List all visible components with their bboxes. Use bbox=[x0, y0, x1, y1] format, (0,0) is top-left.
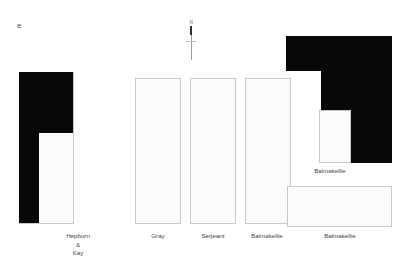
plot-hepburn-kay-block-leg bbox=[19, 72, 39, 223]
north-arrow-head-icon bbox=[190, 26, 192, 35]
north-arrow-label: N bbox=[183, 20, 199, 25]
plot-label-hepburn-kay-line3: Kay bbox=[48, 249, 108, 258]
plot-label-serjeant: Serjeant bbox=[183, 232, 243, 241]
figure-canvas: e N Hepburn & Kay Gray Serjeant Balmakel… bbox=[0, 0, 414, 280]
plot-gray bbox=[135, 78, 181, 224]
plot-label-hepburn-kay: Hepburn & Kay bbox=[48, 232, 108, 258]
plot-label-gray: Gray bbox=[128, 232, 188, 241]
plot-label-balmakellie-1: Balmakellie bbox=[237, 232, 297, 241]
plot-serjeant bbox=[190, 78, 236, 224]
plot-balmakellie-2-lower-range bbox=[287, 186, 392, 227]
plot-label-balmakellie-inner: Balmakellie bbox=[300, 167, 360, 176]
plot-balmakellie-2-inner-court bbox=[319, 110, 351, 163]
plot-label-hepburn-kay-line2: & bbox=[48, 241, 108, 250]
north-arrow-cross-icon bbox=[186, 41, 196, 42]
plot-label-hepburn-kay-line1: Hepburn bbox=[48, 232, 108, 241]
plot-balmakellie-1 bbox=[245, 78, 291, 224]
north-arrow-shaft-icon bbox=[191, 35, 192, 60]
figure-letter: e bbox=[17, 21, 22, 30]
north-arrow: N bbox=[183, 20, 199, 62]
plot-label-balmakellie-2: Balmakellie bbox=[310, 232, 370, 241]
